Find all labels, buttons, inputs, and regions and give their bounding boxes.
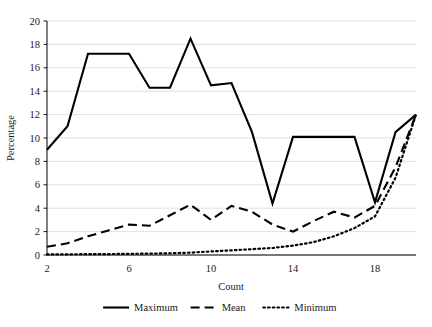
legend-label-minimum: Minimum <box>294 302 336 313</box>
legend-label-maximum: Maximum <box>134 302 178 313</box>
y-axis-ticks: 02468101214161820 <box>30 16 48 261</box>
legend-label-mean: Mean <box>222 302 247 313</box>
line-chart-svg: 02468101214161820 26101418 Percentage Co… <box>0 0 432 327</box>
y-tick-label: 6 <box>35 179 40 190</box>
y-tick-label: 16 <box>30 62 41 73</box>
y-tick-label: 10 <box>30 133 41 144</box>
y-tick-label: 20 <box>30 16 41 27</box>
x-tick-label: 14 <box>288 263 299 274</box>
x-axis-ticks: 26101418 <box>44 263 380 274</box>
chart-figure: 02468101214161820 26101418 Percentage Co… <box>0 0 432 327</box>
y-tick-label: 14 <box>30 86 41 97</box>
x-tick-label: 6 <box>126 263 131 274</box>
y-tick-label: 12 <box>30 109 41 120</box>
x-tick-label: 18 <box>370 263 381 274</box>
x-tick-label: 10 <box>206 263 217 274</box>
y-axis-title: Percentage <box>5 115 16 161</box>
y-tick-label: 18 <box>30 39 41 50</box>
y-tick-label: 4 <box>35 203 41 214</box>
x-tick-label: 2 <box>44 263 49 274</box>
y-tick-label: 2 <box>35 226 40 237</box>
y-tick-label: 8 <box>35 156 40 167</box>
y-tick-label: 0 <box>35 250 40 261</box>
x-axis-title: Count <box>218 281 244 292</box>
chart-legend: MaximumMeanMinimum <box>103 302 336 313</box>
